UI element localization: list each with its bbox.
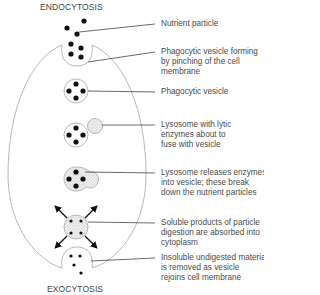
- arrow-icon: [85, 207, 96, 218]
- label-phagocytic-vesicle: Phagocytic vesicle: [161, 87, 228, 97]
- label-soluble-products: Soluble products of particle digestion a…: [161, 218, 260, 249]
- label-lysosome-fuse: Lysosome with lytic enzymes about to fus…: [161, 120, 231, 151]
- digestion-vesicle: [56, 207, 96, 247]
- nutrient-particles: [64, 18, 86, 59]
- phagocytic-vesicle: [64, 79, 88, 103]
- label-lysosome-release: Lysosome releases enzymes into vesicle; …: [161, 168, 264, 199]
- arrow-icon: [56, 236, 67, 247]
- fused-vesicle: [64, 167, 99, 191]
- undigested-particles: [69, 254, 82, 274]
- arrow-icon: [85, 236, 96, 247]
- vesicle-with-lysosome: [64, 119, 103, 148]
- label-nutrient-particle: Nutrient particle: [161, 19, 218, 29]
- arrow-icon: [56, 207, 67, 218]
- label-insoluble-material: Insoluble undigested material is removed…: [161, 253, 264, 284]
- label-vesicle-forming: Phagocytic vesicle forming by pinching o…: [161, 47, 258, 78]
